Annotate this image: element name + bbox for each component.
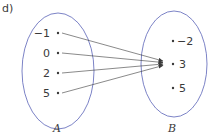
point-icon bbox=[57, 32, 59, 34]
point-icon bbox=[57, 92, 59, 94]
point-icon bbox=[172, 87, 174, 89]
mapping-arrow bbox=[62, 33, 163, 61]
mapping-arrow bbox=[62, 53, 163, 63]
set-a-element: −1 bbox=[34, 27, 50, 40]
set-b-label: B bbox=[167, 122, 176, 135]
point-icon bbox=[57, 72, 59, 74]
arrow-diagram: d) −1 0 2 5 A −2 3 5 B bbox=[0, 0, 212, 138]
point-icon bbox=[57, 52, 59, 54]
mapping-arrow bbox=[62, 66, 163, 94]
part-label: d) bbox=[2, 2, 13, 15]
point-icon bbox=[172, 63, 174, 65]
mapping-arrow bbox=[62, 64, 163, 73]
set-a-element: 0 bbox=[43, 47, 50, 60]
point-icon bbox=[172, 40, 174, 42]
set-b-element: 3 bbox=[179, 58, 186, 71]
set-b-element: −2 bbox=[177, 35, 193, 48]
set-a-label: A bbox=[52, 122, 61, 135]
set-b-element: 5 bbox=[179, 82, 186, 95]
set-a-element: 2 bbox=[43, 67, 50, 80]
set-a-element: 5 bbox=[43, 87, 50, 100]
